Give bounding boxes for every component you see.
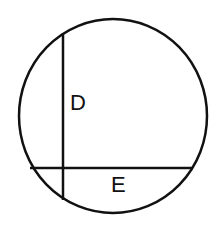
label-d: D <box>70 90 86 115</box>
circle-chords-diagram: D E <box>0 0 220 225</box>
label-e: E <box>111 172 126 197</box>
